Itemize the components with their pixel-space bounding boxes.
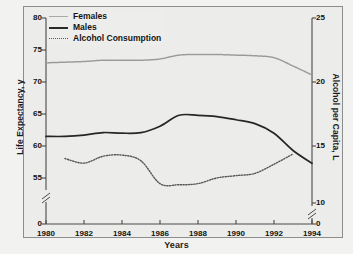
x-axis-label: Years — [0, 240, 353, 250]
chart-figure: 80 75 70 65 60 55 0 25 20 15 10 0 1980 1… — [0, 0, 353, 254]
ytick-left-75: 75 — [20, 45, 42, 54]
legend-swatch-males-icon — [49, 23, 68, 32]
xtick-1988: 1988 — [181, 229, 215, 238]
legend-label-alcohol: Alcohol Consumption — [73, 33, 161, 44]
ytick-left-0: 0 — [20, 219, 42, 228]
xtick-1980: 1980 — [29, 229, 63, 238]
legend-item-females: Females — [49, 11, 161, 22]
series-line-females — [46, 54, 312, 75]
ytick-left-80: 80 — [20, 13, 42, 22]
y-axis-label-left: Life Expectancy, y — [15, 57, 25, 177]
legend-item-alcohol: Alcohol Consumption — [49, 33, 161, 44]
xtick-1990: 1990 — [219, 229, 253, 238]
xtick-1984: 1984 — [105, 229, 139, 238]
xtick-1986: 1986 — [143, 229, 177, 238]
ytick-right-0: 0 — [316, 219, 338, 228]
legend-item-males: Males — [49, 22, 161, 33]
series-line-alcohol-consumption — [65, 154, 293, 186]
series-line-males — [46, 114, 312, 163]
ytick-right-10: 10 — [316, 198, 338, 207]
legend-swatch-females-icon — [49, 12, 68, 21]
legend-label-females: Females — [73, 11, 107, 22]
xtick-1994: 1994 — [295, 229, 329, 238]
data-series-group — [46, 54, 312, 185]
xtick-1992: 1992 — [257, 229, 291, 238]
ytick-right-25: 25 — [316, 13, 338, 22]
axis-lines — [42, 18, 316, 224]
legend-label-males: Males — [73, 22, 97, 33]
legend-swatch-alcohol-icon — [49, 34, 68, 43]
y-axis-label-right: Alcohol per Capita, L — [331, 57, 341, 177]
xtick-1982: 1982 — [67, 229, 101, 238]
chart-legend: Females Males Alcohol Consumption — [47, 10, 164, 45]
